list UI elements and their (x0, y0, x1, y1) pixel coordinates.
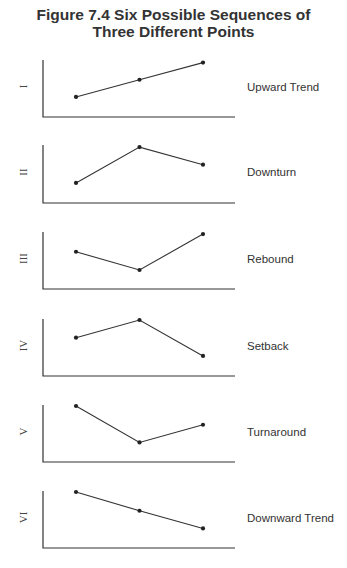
data-point (74, 336, 78, 340)
data-point (201, 354, 205, 358)
panel-numeral: VI (17, 511, 29, 523)
panel-numeral: V (17, 427, 29, 435)
data-point (201, 423, 205, 427)
data-point (201, 526, 205, 530)
data-point (137, 509, 141, 513)
data-point (74, 250, 78, 254)
panel-iv: IVSetback (17, 318, 289, 376)
axes (43, 319, 235, 376)
sequence-line (76, 320, 203, 356)
panel-label: Setback (247, 340, 289, 352)
data-point (74, 95, 78, 99)
data-point (137, 78, 141, 82)
panel-label: Downturn (247, 166, 296, 178)
data-point (137, 440, 141, 444)
axes (43, 232, 235, 289)
panel-iii: IIIRebound (17, 232, 294, 289)
sequence-panels: IUpward TrendIIDownturnIIIReboundIVSetba… (0, 0, 347, 568)
axes (43, 145, 235, 203)
panel-numeral: II (17, 168, 29, 176)
data-point (74, 181, 78, 185)
panel-v: VTurnaround (17, 404, 307, 462)
panel-label: Turnaround (247, 426, 306, 438)
panel-label: Upward Trend (247, 81, 319, 93)
sequence-line (76, 234, 203, 270)
sequence-line (76, 147, 203, 183)
panel-label: Downward Trend (247, 512, 334, 524)
sequence-line (76, 406, 203, 442)
data-point (137, 268, 141, 272)
data-point (137, 318, 141, 322)
panel-numeral: I (17, 84, 29, 88)
axes (43, 60, 235, 117)
panel-label: Rebound (247, 253, 294, 265)
panel-i: IUpward Trend (17, 60, 320, 117)
data-point (137, 145, 141, 149)
data-point (201, 163, 205, 167)
data-point (74, 490, 78, 494)
data-point (201, 61, 205, 65)
panel-numeral: IV (17, 340, 29, 352)
data-point (74, 404, 78, 408)
data-point (201, 232, 205, 236)
panel-ii: IIDownturn (17, 145, 297, 203)
panel-vi: VIDownward Trend (17, 490, 334, 548)
axes (43, 491, 235, 548)
panel-numeral: III (17, 253, 29, 264)
axes (43, 405, 235, 462)
